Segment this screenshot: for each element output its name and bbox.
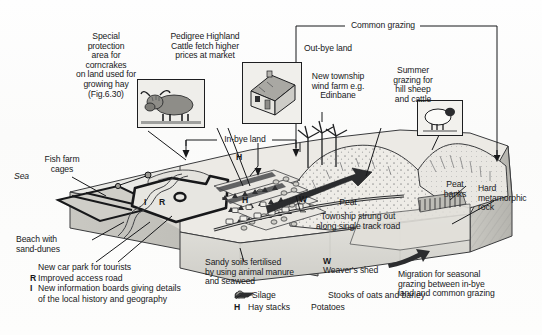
label-hard-rock: Hard metamorphic rock	[478, 184, 542, 213]
label-summer-grazing: Summer grazing for hill sheep and cattle	[382, 66, 444, 104]
key-letter-road: R	[30, 273, 38, 284]
label-sea: Sea	[14, 172, 44, 182]
label-out-bye-land: Out-bye land	[304, 44, 394, 54]
map-letter-r: R	[159, 198, 165, 208]
key-symbol-list: Silage Stooks of oats and barley H Hay s…	[234, 290, 534, 312]
key-text-hay: Hay stacks	[248, 302, 310, 313]
key-letter-w: W	[323, 256, 331, 266]
hill-sheep-photo	[417, 100, 463, 136]
key-letter-info: I	[30, 283, 38, 304]
key-text-stooks: Stooks of oats and barley	[328, 290, 425, 301]
label-peat-banks: Peat banks	[436, 180, 474, 199]
key-text-weavers-shed: Weaver's shed	[323, 265, 378, 275]
key-letter-hay: H	[234, 302, 244, 313]
label-special-protection: Special protection area for corncrakes o…	[60, 32, 152, 99]
croft-house-photo	[242, 62, 302, 124]
map-letter-h-lower: H	[242, 196, 248, 206]
key-text-potatoes: Potatoes	[311, 302, 345, 313]
map-letter-w: W	[299, 195, 307, 205]
key-weavers-shed: W Weaver's shed	[323, 247, 413, 276]
label-beach: Beach with sand-dunes	[16, 235, 86, 254]
label-common-grazing: Common grazing	[345, 21, 421, 31]
potatoes-icon	[234, 290, 254, 300]
label-in-bye-land: In-bye land	[217, 135, 273, 145]
key-item-road: RImproved access road	[30, 273, 230, 284]
key-item-info: INew information boards giving details o…	[30, 283, 230, 304]
key-symbol-row-1: Silage Stooks of oats and barley	[234, 290, 534, 301]
figure-root: Special protection area for corncrakes o…	[0, 0, 542, 335]
key-tourist-list: New car park for tourists RImproved acce…	[30, 262, 230, 304]
key-text-info: New information boards giving details of…	[38, 283, 181, 304]
label-peat: Peat	[332, 198, 364, 208]
key-text-silage: Silage	[252, 290, 324, 301]
label-township: Township strung out along single track r…	[296, 212, 420, 231]
key-text-road: Improved access road	[38, 273, 123, 283]
label-highland-cattle: Pedigree Highland Cattle fetch higher pr…	[152, 32, 258, 61]
label-wind-farm: New township wind farm e.g. Edinbane	[300, 72, 376, 101]
key-symbol-row-2: H Hay stacks Potatoes	[234, 302, 534, 313]
key-item-carpark: New car park for tourists	[30, 262, 230, 273]
key-text-carpark: New car park for tourists	[38, 262, 131, 272]
map-letter-h-top: H	[236, 153, 242, 163]
map-letter-i: I	[144, 198, 146, 208]
